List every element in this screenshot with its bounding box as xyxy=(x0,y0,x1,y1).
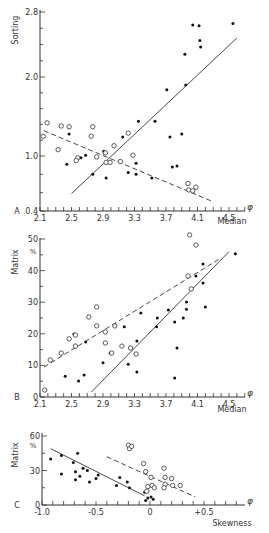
panel-b-x-tick-label: 3.7 xyxy=(160,400,173,409)
panel-b-filled-point xyxy=(202,262,205,265)
panel-b-open-point xyxy=(128,346,132,350)
panel-b-open-point xyxy=(120,344,124,348)
panel-a-y-tick-label: 1.0 xyxy=(25,152,38,161)
panel-b-open-point xyxy=(43,388,47,392)
panel-a-open-point xyxy=(45,121,49,125)
panel-b-open-point xyxy=(103,341,107,345)
panel-b-panel-label: B xyxy=(14,393,20,402)
panel-a-filled-point xyxy=(135,162,138,165)
panel-a-open-point xyxy=(191,189,195,193)
panel-b-open-point xyxy=(134,352,138,356)
panel-c-x-unit: φ xyxy=(247,496,253,506)
panel-b-y-tick-label: 50 xyxy=(28,235,38,244)
panel-c-open-point xyxy=(145,489,149,493)
panel-a-open-point xyxy=(126,131,130,135)
panel-a-filled-point xyxy=(198,24,201,27)
panel-b-filled-point xyxy=(173,377,176,380)
panel-b-filled-point xyxy=(84,341,87,344)
panel-b-filled-point xyxy=(167,309,170,312)
panel-c-open-point xyxy=(162,486,166,490)
panel-c-x-tick-label: -0.5 xyxy=(88,508,104,517)
panel-b-x-tick-label: 2.5 xyxy=(65,400,78,409)
panel-a-filled-point xyxy=(153,120,156,123)
panel-c-y-tick-label: 60 xyxy=(30,432,40,441)
panel-b-x-label: Median xyxy=(217,405,246,414)
panel-c-filled-point xyxy=(115,484,118,487)
panel-b-filled-point xyxy=(176,347,179,350)
panel-a-open-point xyxy=(108,160,112,164)
panel-c-y-label: Matrix xyxy=(11,442,20,467)
panel-c-open-point xyxy=(149,475,153,479)
panel-c-filled-point xyxy=(152,498,155,501)
panel-a-x-tick-label: 3.7 xyxy=(160,214,173,223)
panel-a-filled-point xyxy=(105,177,108,180)
panel-a-filled-point xyxy=(191,24,194,27)
panel-b-open-point xyxy=(95,305,99,309)
panel-a-open-point xyxy=(186,181,190,185)
panel-b-y-label: Matrix xyxy=(11,249,20,274)
panel-b-open-point xyxy=(103,330,107,334)
panel-b-open-point xyxy=(59,351,63,355)
panel-a-x-tick-label: 3.3 xyxy=(128,214,141,223)
panel-b-filled-point xyxy=(123,325,126,328)
panel-a-open-point xyxy=(91,125,95,129)
panel-b-open-point xyxy=(187,233,191,237)
panel-b-filled-point xyxy=(102,361,105,364)
panel-c-open-point xyxy=(146,484,150,488)
panel-a-x-label: Median xyxy=(217,217,246,226)
panel-b-filled-point xyxy=(185,300,188,303)
panel-c-open-point xyxy=(170,483,174,487)
panel-a-open-point xyxy=(41,134,45,138)
panel-c-filled-point xyxy=(86,469,89,472)
panel-b-x-unit: φ xyxy=(247,388,253,398)
panel-c-y-tick-label: 30 xyxy=(30,467,40,476)
panel-c-y-label-unit: % xyxy=(30,442,37,450)
panel-a-x-tick-label: 2.5 xyxy=(65,214,78,223)
panel-a-filled-point xyxy=(184,83,187,86)
panel-a-open-point xyxy=(74,158,78,162)
panel-a-filled-point xyxy=(180,132,183,135)
panel-c-x-tick-label: +0.5 xyxy=(194,508,213,517)
panel-a-filled-point xyxy=(171,166,174,169)
panel-a-open-point xyxy=(118,159,122,163)
panel-a-open-point xyxy=(59,124,63,128)
panel-b-filled-point xyxy=(127,363,130,366)
panel-b-filled-point xyxy=(194,274,197,277)
panel-a-x-tick-label: 2.9 xyxy=(97,214,110,223)
panel-b-y-label-unit: % xyxy=(30,248,37,256)
panel-a-filled-point xyxy=(165,88,168,91)
panel-b-open-point xyxy=(87,315,91,319)
panel-c-open-point xyxy=(129,444,133,448)
panel-a-open-point xyxy=(56,147,60,151)
panel-c-filled-point xyxy=(88,481,91,484)
panel-b-y-tick-label: 20 xyxy=(28,330,38,339)
panel-a-filled-point xyxy=(127,171,130,174)
panel-c-x-label: Skewness xyxy=(212,519,251,528)
panel-c-filled-point xyxy=(76,452,79,455)
panel-a-y-tick-label: 2.8 xyxy=(25,8,38,17)
panel-a-filled-trend-line xyxy=(72,38,237,194)
panel-b-filled-point xyxy=(77,379,80,382)
panel-c-filled-point xyxy=(118,476,121,479)
panel-c-open-point xyxy=(141,461,145,465)
panel-a-x-tick-label: 4.1 xyxy=(191,214,204,223)
figure: 2.12.52.93.33.74.14.50.41.02.02.8ASortin… xyxy=(0,0,269,533)
panel-a-filled-point xyxy=(168,136,171,139)
panel-a-open-point xyxy=(95,155,99,159)
panel-b-filled-point xyxy=(182,317,185,320)
panel-a-y-tick-label: 0.4 xyxy=(25,207,38,216)
panel-a-panel-label: A xyxy=(14,207,20,216)
panel-c-filled-point xyxy=(126,481,129,484)
panel-b-filled-point xyxy=(64,375,67,378)
panel-b-x-tick-label: 2.9 xyxy=(97,400,110,409)
panel-b-open-point xyxy=(67,337,71,341)
panel-b-filled-point xyxy=(135,371,138,374)
panel-a-filled-point xyxy=(65,163,68,166)
panel-c-open-point xyxy=(178,483,182,487)
panel-c-open-point xyxy=(169,476,173,480)
panel-b-x-tick-label: 3.3 xyxy=(128,400,141,409)
panel-c-filled-point xyxy=(74,470,77,473)
panel-b-filled-point xyxy=(173,321,176,324)
panel-a-open-point xyxy=(194,185,198,189)
panel-b-filled-point xyxy=(83,373,86,376)
